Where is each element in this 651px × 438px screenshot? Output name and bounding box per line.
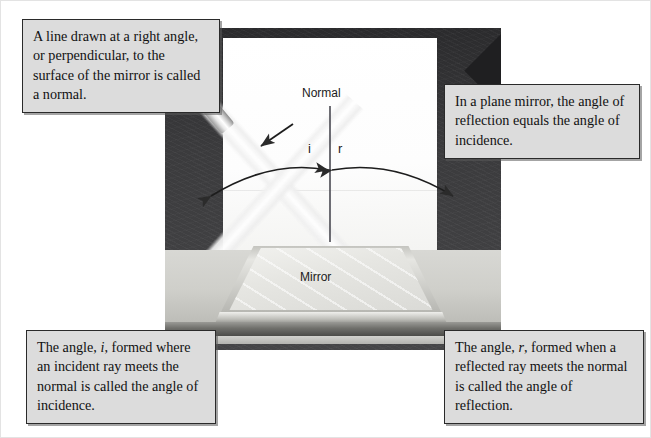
- angle-i-label: i: [308, 141, 311, 156]
- caption-top-right: In a plane mirror, the angle of reflecti…: [444, 84, 640, 159]
- caption-bottom-right-lead: The angle,: [455, 339, 515, 355]
- normal-label: Normal: [302, 86, 341, 100]
- mirror-label: Mirror: [300, 270, 331, 284]
- caption-bottom-left-lead: The angle,: [37, 339, 97, 355]
- caption-bottom-left: The angle, i, formed where an incident r…: [26, 330, 216, 424]
- caption-top-left: A line drawn at a right angle, or perpen…: [22, 19, 220, 113]
- panel-seam-line: [223, 190, 437, 191]
- figure-root: Normal i r Mirror A line drawn at a righ…: [0, 0, 651, 438]
- angle-r-label: r: [338, 141, 342, 156]
- caption-top-left-text: A line drawn at a right angle, or perpen…: [33, 28, 200, 102]
- caption-top-right-text: In a plane mirror, the angle of reflecti…: [455, 93, 624, 148]
- caption-bottom-right: The angle, r, formed when a reflected ra…: [444, 330, 644, 424]
